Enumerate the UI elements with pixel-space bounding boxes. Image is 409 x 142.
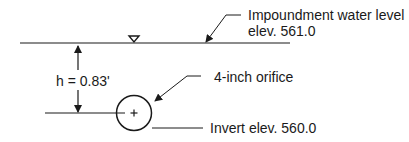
invert-label: Invert elev. 560.0 — [210, 120, 317, 136]
orifice-leader-line — [155, 76, 201, 101]
head-label: h = 0.83' — [56, 73, 110, 89]
water-level-triangle-icon — [129, 36, 139, 42]
water-level-leader-line — [206, 15, 241, 42]
orifice-label: 4-inch orifice — [214, 69, 294, 85]
water-level-label-line2: elev. 561.0 — [248, 23, 316, 39]
orifice-head-diagram: h = 0.83' 4-inch orifice Invert elev. 56… — [0, 0, 409, 142]
water-level-label-line1: Impoundment water level — [248, 7, 404, 23]
